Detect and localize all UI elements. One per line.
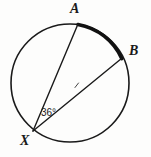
point-label-a: A: [70, 2, 79, 16]
midpoint-tick-icon: [75, 83, 79, 88]
chord-xb: [33, 59, 122, 132]
arc-ab-highlight: [78, 25, 122, 59]
point-label-b: B: [129, 44, 138, 58]
geometry-figure: A B X 36°: [0, 0, 151, 157]
point-label-x: X: [20, 134, 29, 148]
angle-measure-label: 36°: [41, 108, 56, 118]
